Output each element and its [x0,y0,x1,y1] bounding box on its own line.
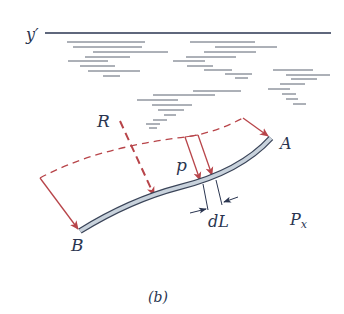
end-arrow-a [243,118,268,136]
end-arrow-b [40,178,78,229]
label-end-b: B [71,237,84,254]
label-resultant-r: R [97,113,110,130]
label-pressure-p: p [176,157,187,174]
dl-arrow-right [224,197,238,202]
dl-extension-right [216,180,222,205]
dl-extension-left [203,184,208,210]
label-surface-y-prime: y′ [26,27,39,43]
dl-arrow-left [190,209,206,213]
figure-b-diagram: y′ R p A B dL Px (b) [0,0,344,314]
label-px-base: P [290,210,301,229]
label-element-dl: dL [208,214,229,230]
figure-caption: (b) [148,290,168,304]
label-component-px: Px [290,212,307,230]
pressure-strip-top [185,135,198,137]
diagram-svg [0,0,344,314]
label-end-a: A [280,136,292,152]
pressure-arrow-2 [198,135,212,175]
label-px-sub: x [301,218,307,231]
pressure-arrow-1 [185,137,200,180]
resultant-arrow [120,121,154,195]
